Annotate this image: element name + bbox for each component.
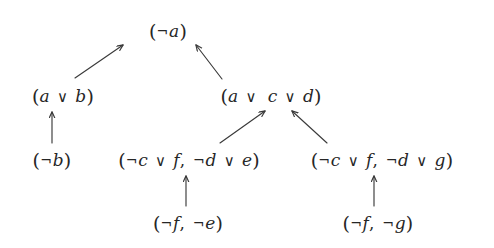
node-clause-not-c-or-f-not-d-or-e: (¬c ∨ f, ¬d ∨ e) bbox=[118, 150, 260, 169]
node-not-b: (¬b) bbox=[33, 150, 72, 169]
arrow-clause-g-to-a-or-c-or-d bbox=[292, 111, 327, 143]
node-not-f-not-e: (¬f, ¬e) bbox=[153, 213, 223, 232]
node-not-f-not-g: (¬f, ¬g) bbox=[343, 213, 414, 232]
node-clause-not-c-or-f-not-d-or-g: (¬c ∨ f, ¬d ∨ g) bbox=[311, 150, 454, 169]
node-a-or-b: (a ∨ b) bbox=[32, 86, 94, 105]
derivation-tree-diagram: (¬a) (a ∨ b) (a ∨ c ∨ d) (¬b) (¬c ∨ f, ¬… bbox=[0, 0, 494, 248]
node-not-a: (¬a) bbox=[149, 21, 187, 40]
node-a-or-c-or-d: (a ∨ c ∨ d) bbox=[220, 86, 321, 105]
arrow-layer bbox=[0, 0, 494, 248]
arrow-a-or-c-or-d-to-not-a bbox=[196, 45, 222, 79]
arrow-clause-e-to-a-or-c-or-d bbox=[220, 111, 265, 143]
arrow-a-or-b-to-not-a bbox=[75, 45, 123, 78]
